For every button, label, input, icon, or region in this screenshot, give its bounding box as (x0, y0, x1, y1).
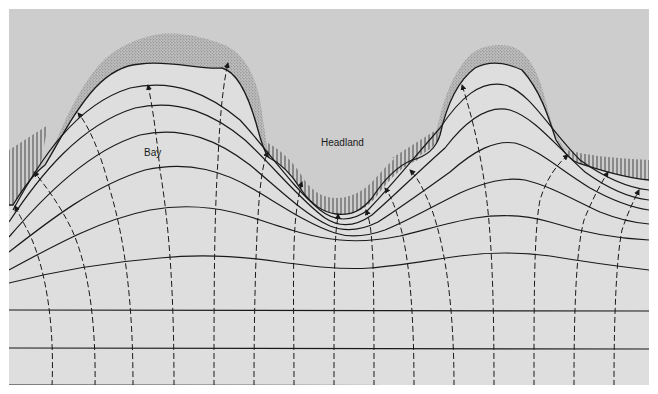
diagram-canvas (0, 0, 658, 394)
bay-label: Bay (144, 147, 161, 158)
wave-refraction-diagram: Bay Headland (0, 0, 658, 394)
headland-label: Headland (321, 137, 364, 148)
